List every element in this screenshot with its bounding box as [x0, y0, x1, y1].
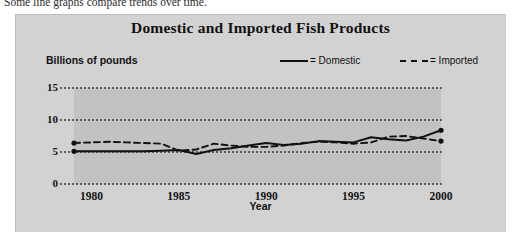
- chart-title: Domestic and Imported Fish Products: [15, 19, 506, 37]
- figure-caption: Some line graphs compare trends over tim…: [4, 0, 524, 10]
- series-endpoint-imported: [438, 139, 443, 144]
- series-endpoint-domestic: [438, 128, 443, 133]
- chart-legend: = Domestic = Imported: [280, 54, 495, 72]
- legend-item-domestic: = Domestic: [280, 54, 360, 68]
- gridlines: [60, 88, 443, 184]
- plot-area: [59, 74, 459, 194]
- y-tick-label-10: 10: [32, 113, 58, 125]
- y-tick-label-0: 0: [32, 177, 58, 189]
- legend-item-imported: = Imported: [400, 54, 478, 68]
- series-lines: [71, 128, 443, 154]
- series-endpoint-domestic: [71, 149, 76, 154]
- legend-label-domestic: = Domestic: [310, 55, 360, 66]
- y-tick-label-15: 15: [32, 81, 58, 93]
- legend-line-dashed-icon: [400, 57, 428, 65]
- legend-line-solid-icon: [280, 57, 308, 65]
- y-axis-title: Billions of pounds: [46, 54, 138, 66]
- plot-svg: [59, 74, 459, 194]
- figure-panel: Domestic and Imported Fish Products Bill…: [15, 14, 506, 232]
- x-axis-title: Year: [15, 200, 506, 212]
- y-tick-label-5: 5: [32, 145, 58, 157]
- series-endpoint-imported: [71, 140, 76, 145]
- legend-label-imported: = Imported: [430, 55, 478, 66]
